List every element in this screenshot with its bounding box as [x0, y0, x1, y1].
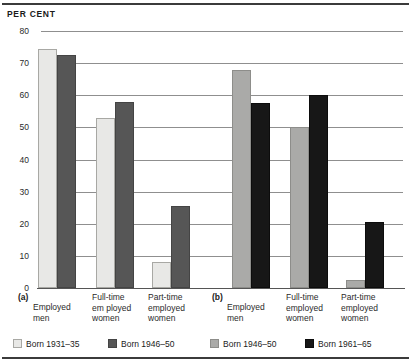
- panel-label-b: (b): [212, 292, 223, 302]
- bar-panel-a-cat-0-series-1: [57, 55, 76, 288]
- bar-panel-a-cat-0-series-0: [38, 49, 57, 288]
- legend-color-swatch: [108, 339, 117, 348]
- x-axis-category-label-line: Full-time: [286, 292, 342, 303]
- legend-item-label: Born 1931–35: [26, 339, 79, 349]
- legend-item[interactable]: Born 1961–65: [305, 339, 371, 349]
- bar-panel-b-cat-2-series-0: [346, 280, 365, 288]
- x-axis-category-label-line: Part-time: [341, 292, 397, 303]
- y-axis-tick-label: 60: [1, 90, 29, 100]
- y-axis-tick-label: 10: [1, 251, 29, 261]
- x-axis-category-label-line: women: [92, 313, 148, 324]
- x-axis-category-label: Part-timeemployedwomen: [148, 292, 204, 324]
- bar-panel-b-cat-0-series-0: [232, 70, 251, 288]
- x-axis-category-label-line: women: [341, 313, 397, 324]
- legend-item[interactable]: Born 1946–50: [210, 339, 276, 349]
- panel-label-a: (a): [18, 292, 28, 302]
- y-axis-tick-label: 80: [1, 26, 29, 36]
- x-axis-category-label-line: Employed: [227, 302, 283, 313]
- y-axis-tick-label: 50: [1, 122, 29, 132]
- x-axis-category-label: Employedmen: [33, 302, 89, 323]
- legend-color-swatch: [13, 339, 22, 348]
- x-axis-category-label-line: women: [148, 313, 204, 324]
- x-axis-category-label-line: Full-time: [92, 292, 148, 303]
- legend-color-swatch: [210, 339, 219, 348]
- legend-color-swatch: [305, 339, 314, 348]
- y-axis-title: PER CENT: [7, 9, 56, 19]
- x-axis-category-label: Full-timeem ployedwomen: [92, 292, 148, 324]
- x-axis-category-label-line: employed: [286, 303, 342, 314]
- bar-panel-b-cat-1-series-0: [290, 127, 309, 288]
- y-axis-tick-label: 70: [1, 58, 29, 68]
- x-axis-category-label-line: Employed: [33, 302, 89, 313]
- x-axis-category-label: Part-timeemployedwomen: [341, 292, 397, 324]
- x-axis-category-label-line: em ployed: [92, 303, 148, 314]
- y-axis-tick-label: 30: [1, 187, 29, 197]
- bar-panel-b-cat-1-series-1: [309, 95, 328, 288]
- legend-item-label: Born 1946–50: [121, 339, 174, 349]
- bar-panel-b-cat-0-series-1: [251, 103, 270, 288]
- bar-panel-a-cat-1-series-0: [96, 118, 115, 288]
- bar-panel-a-cat-1-series-1: [115, 102, 134, 288]
- legend-item[interactable]: Born 1946–50: [108, 339, 174, 349]
- x-axis-category-label-line: men: [227, 313, 283, 324]
- bar-panel-b-cat-2-series-1: [365, 222, 384, 288]
- x-axis-category-label-line: employed: [341, 303, 397, 314]
- legend-item-label: Born 1961–65: [318, 339, 371, 349]
- y-axis-tick-label: 40: [1, 155, 29, 165]
- bar-panel-a-cat-2-series-0: [152, 262, 171, 288]
- gridline: [41, 95, 403, 96]
- x-axis-category-label-line: employed: [148, 303, 204, 314]
- legend-item[interactable]: Born 1931–35: [13, 339, 79, 349]
- bar-panel-a-cat-2-series-1: [171, 206, 190, 288]
- gridline: [41, 31, 403, 32]
- x-axis-label-row: (a)EmployedmenFull-timeem ployedwomenPar…: [0, 292, 411, 332]
- x-axis-category-label-line: Part-time: [148, 292, 204, 303]
- x-axis-category-label-line: women: [286, 313, 342, 324]
- x-axis-category-label: Employedmen: [227, 302, 283, 323]
- legend-item-label: Born 1946–50: [223, 339, 276, 349]
- chart-legend: Born 1931–35Born 1946–50Born 1946–50Born…: [0, 337, 411, 353]
- x-axis-baseline: [37, 288, 405, 289]
- y-axis-tick-label: 20: [1, 219, 29, 229]
- plot-area: 01020304050607080: [41, 31, 403, 288]
- x-axis-category-label: Full-timeemployedwomen: [286, 292, 342, 324]
- figure-container: PER CENT 01020304050607080 (a)Employedme…: [0, 0, 411, 362]
- bottom-divider-rule: [2, 357, 409, 359]
- x-axis-category-label-line: men: [33, 313, 89, 324]
- gridline: [41, 63, 403, 64]
- top-divider-rule: [2, 3, 409, 5]
